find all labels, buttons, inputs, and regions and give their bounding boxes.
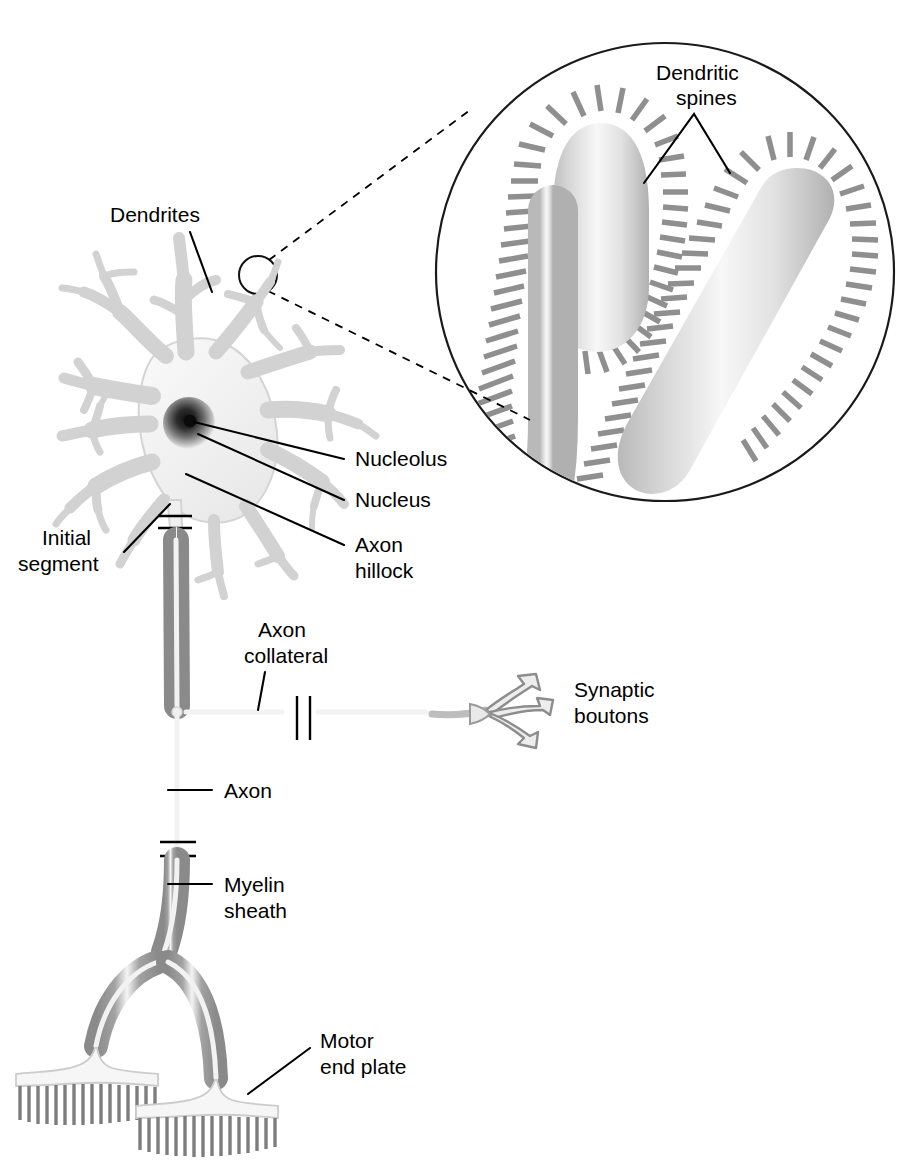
myelin-sheath-label-line1: Myelin	[224, 873, 285, 896]
axon-with-myelin	[96, 540, 216, 1078]
end-plate-right-fibres	[140, 1116, 275, 1157]
initial-segment-label-line2: segment	[18, 552, 99, 575]
synaptic-boutons-label-line1: Synaptic	[574, 678, 655, 701]
end-plate-left-fibres	[20, 1084, 155, 1125]
synaptic-boutons	[470, 674, 553, 748]
motor-end-plate-label-line2: end plate	[320, 1055, 406, 1078]
dendritic-spines-inset: Dendritic spines	[436, 43, 894, 520]
axon-collateral-branch	[186, 674, 553, 748]
axon-core-1	[176, 540, 177, 706]
dendrites-label: Dendrites	[110, 203, 200, 226]
motor-end-plate-leader	[248, 1048, 310, 1094]
motor-end-plates	[16, 1048, 278, 1157]
nucleolus-label: Nucleolus	[355, 447, 447, 470]
nucleolus	[184, 415, 197, 428]
axon-collateral-label-line2: collateral	[244, 644, 328, 667]
axon-label: Axon	[224, 779, 272, 802]
myelin-sheath-label-line2: sheath	[224, 899, 287, 922]
neuron-diagram: Dendritic spines	[0, 0, 911, 1162]
axon-hillock-label-line1: Axon	[355, 533, 403, 556]
motor-end-plate-right	[136, 1080, 278, 1157]
initial-segment-label-line1: Initial	[42, 526, 91, 549]
motor-end-plate-label-line1: Motor	[320, 1029, 374, 1052]
terminal-branch-left	[96, 962, 158, 1046]
diagram-canvas: Dendritic spines	[0, 0, 911, 1162]
axon-hillock-label-line2: hillock	[355, 559, 414, 582]
dendritic-spines-label-line2: spines	[676, 86, 737, 109]
dendritic-spines-label-line1: Dendritic	[656, 61, 739, 84]
soma-and-dendrites	[56, 238, 376, 596]
axon-collateral-label-line1: Axon	[258, 618, 306, 641]
synaptic-boutons-label-line2: boutons	[574, 704, 649, 727]
nucleus-label: Nucleus	[355, 488, 431, 511]
dendrite-shaft-left-lower	[540, 210, 553, 520]
bouton-lower	[489, 714, 538, 748]
